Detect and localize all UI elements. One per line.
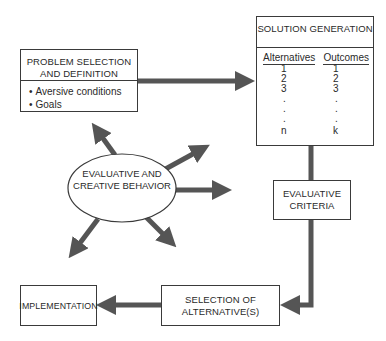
list-item: Goals — [29, 98, 137, 111]
selection-title: SELECTION OF ALTERNATIVE(S) — [171, 294, 271, 318]
implementation-box: IMPLEMENTATION — [20, 285, 97, 326]
outcomes-header: Outcomes — [323, 52, 369, 65]
implementation-title: IMPLEMENTATION — [19, 300, 97, 312]
alternatives-header: Alternatives — [263, 52, 315, 65]
arrow-center-up-left — [97, 130, 115, 155]
alternative-label: n — [281, 125, 287, 136]
arrow-center-down-right — [146, 217, 170, 241]
list-item: Aversive conditions — [29, 85, 137, 98]
arrow-center-down-left — [74, 219, 98, 251]
outcome-label: . — [335, 113, 338, 124]
solution-generation-box: SOLUTION GENERATION Alternatives Outcome… — [256, 16, 374, 146]
solution-columns-header: Alternatives Outcomes — [257, 48, 373, 65]
problem-selection-title: PROBLEM SELECTION AND DEFINITION — [21, 50, 137, 81]
problem-selection-box: PROBLEM SELECTION AND DEFINITION Aversiv… — [20, 49, 138, 112]
outcome-label: k — [333, 125, 338, 136]
problem-items-list: Aversive conditions Goals — [21, 81, 137, 111]
evaluative-criteria-title: EVALUATIVE CRITERIA — [282, 188, 342, 212]
solution-generation-title: SOLUTION GENERATION — [257, 17, 373, 48]
arrow-criteria-to-selection — [289, 220, 311, 305]
alternative-label: . — [283, 113, 286, 124]
evaluative-criteria-box: EVALUATIVE CRITERIA — [273, 180, 351, 220]
center-ellipse-label: EVALUATIVE AND CREATIVE BEHAVIOR — [68, 168, 176, 192]
selection-of-alternatives-box: SELECTION OF ALTERNATIVE(S) — [161, 285, 280, 326]
